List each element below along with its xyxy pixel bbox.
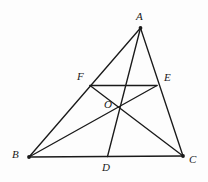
segment-CF (90, 86, 183, 157)
segment-CA (141, 28, 184, 156)
vertex-dot-b (27, 155, 31, 159)
vertex-label-c: C (189, 154, 196, 165)
geometry-figure (0, 0, 208, 182)
vertex-dot-c (181, 154, 185, 158)
vertex-label-f: F (77, 71, 84, 82)
diagram-canvas: ABCDEFO (0, 0, 208, 182)
vertex-dot-a (139, 26, 143, 30)
vertex-label-e: E (164, 72, 171, 83)
vertex-label-d: D (102, 162, 110, 173)
vertex-label-a: A (136, 11, 143, 22)
vertex-label-b: B (12, 149, 19, 160)
vertex-label-o: O (104, 99, 112, 110)
segments-group (29, 28, 183, 157)
segment-BC (29, 156, 183, 157)
